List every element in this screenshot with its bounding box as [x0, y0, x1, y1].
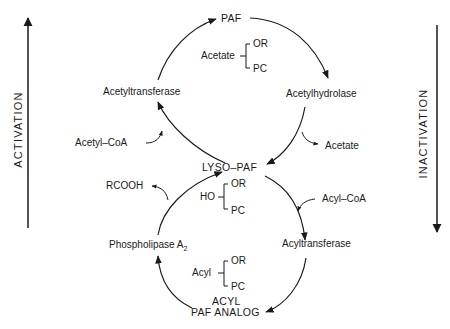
phospholipase-label: Phospholipase A	[109, 239, 184, 250]
lysopaf-pc-label: PC	[231, 206, 245, 216]
rcooh-label: RCOOH	[106, 181, 143, 191]
arrow-acyltransferase-to-acylpaf	[266, 258, 306, 312]
acetyltransferase-node: Acetyltransferase	[103, 87, 180, 97]
acylpaf-group-label: Acyl	[192, 268, 211, 278]
arrow-acylpaf-to-phospholipase	[158, 256, 192, 308]
arrow-rcooh-out	[152, 186, 168, 200]
arrow-acetylhydrolase-to-lysopaf	[267, 107, 305, 164]
paf-node: PAF	[221, 13, 242, 24]
paf-pc-label: PC	[253, 64, 267, 74]
acetylhydrolase-node: Acetylhydrolase	[286, 89, 357, 99]
arrow-acetate-out	[302, 132, 318, 144]
arrow-phospholipase-to-lysopaf	[158, 172, 222, 235]
acetyl-coa-label: Acetyl–CoA	[75, 138, 127, 148]
arrow-acetyl-coa-in	[146, 131, 162, 143]
acyltransferase-node: Acyltransferase	[282, 239, 351, 249]
paf-or-label: OR	[253, 39, 268, 49]
phospholipase-subscript: 2	[184, 245, 188, 252]
lyso-paf-node: LYSO–PAF	[202, 162, 257, 173]
paf-cycle-diagram: ACTIVATION INACTIVATION PAF Acetate OR P…	[0, 0, 450, 329]
inactivation-label: INACTIVATION	[418, 79, 429, 189]
acylpaf-or-label: OR	[231, 256, 246, 266]
arrow-lysopaf-to-acetyltransferase	[158, 102, 225, 163]
phospholipase-node: Phospholipase A2	[109, 240, 187, 252]
acylpaf-structure-bracket	[218, 261, 228, 286]
paf-group-label: Acetate	[201, 51, 235, 61]
activation-label: ACTIVATION	[13, 85, 24, 175]
paf-structure-bracket	[240, 44, 250, 68]
acyl-paf-analog-line1: ACYL	[212, 296, 241, 307]
lysopaf-structure-bracket	[218, 184, 228, 209]
acylpaf-pc-label: PC	[231, 282, 245, 292]
arrow-acyl-coa-in	[298, 199, 315, 211]
lysopaf-or-label: OR	[231, 179, 246, 189]
acyl-paf-analog-line2: PAF ANALOG	[191, 307, 260, 318]
acetate-out-label: Acetate	[325, 141, 359, 151]
lysopaf-group-label: HO	[200, 192, 215, 202]
acyl-coa-label: Acyl–CoA	[322, 194, 366, 204]
